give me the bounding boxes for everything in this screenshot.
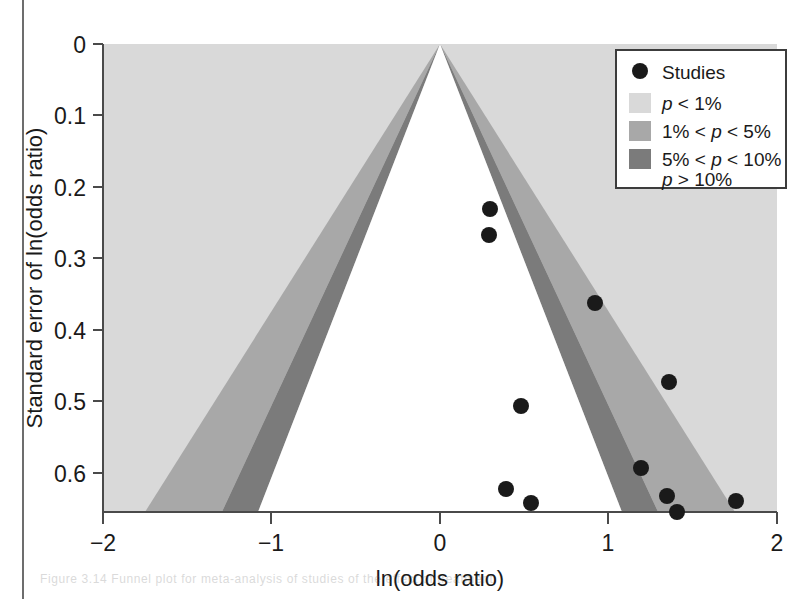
y-tick-label: 0.3	[54, 246, 86, 272]
legend-item-label: 1% < p < 5%	[662, 121, 771, 142]
y-tick-label: 0.6	[54, 461, 86, 487]
legend-item-label: p > 10%	[661, 169, 732, 190]
funnel-plot-figure: 0 0.1 0.2 0.3 0.4 0.5 0.6 −2 −1 0 1 2 ln…	[0, 0, 806, 599]
y-tick-label: 0.5	[54, 389, 86, 415]
data-point[interactable]	[498, 481, 514, 497]
data-point[interactable]	[633, 460, 649, 476]
legend-item-label: Studies	[662, 62, 725, 83]
x-tick-label: 0	[434, 530, 447, 556]
x-tick-label: −1	[258, 530, 284, 556]
figure-caption-faint: Figure 3.14 Funnel plot for meta-analysi…	[40, 572, 780, 592]
legend: Studies p < 1% 1% < p < 5% 5% < p < 10% …	[616, 50, 786, 190]
legend-item-label: p < 1%	[661, 93, 722, 114]
x-tick-label: 2	[771, 530, 784, 556]
data-point[interactable]	[659, 488, 675, 504]
funnel-plot-canvas: 0 0.1 0.2 0.3 0.4 0.5 0.6 −2 −1 0 1 2 ln…	[0, 0, 806, 599]
x-tick-label: −2	[90, 530, 116, 556]
data-point[interactable]	[481, 227, 497, 243]
data-point[interactable]	[523, 495, 539, 511]
data-point[interactable]	[661, 374, 677, 390]
legend-swatch-p-lt-1pct	[629, 93, 651, 113]
legend-studies-dot-icon	[632, 63, 648, 79]
data-point[interactable]	[669, 504, 685, 520]
y-axis-title: Standard error of ln(odds ratio)	[22, 128, 47, 429]
x-tick-label: 1	[602, 530, 615, 556]
y-tick-label: 0.4	[54, 318, 86, 344]
data-point[interactable]	[513, 398, 529, 414]
legend-swatch-1pct-to-5pct	[629, 121, 651, 141]
x-tick-labels: −2 −1 0 1 2	[90, 530, 784, 556]
y-tick-label: 0.2	[54, 175, 86, 201]
y-tick-label: 0.1	[54, 103, 86, 129]
y-tick-labels: 0 0.1 0.2 0.3 0.4 0.5 0.6	[54, 32, 86, 487]
legend-swatch-5pct-to-10pct	[629, 149, 651, 169]
y-tick-label: 0	[73, 32, 86, 58]
y-axis-ticks	[93, 44, 103, 473]
data-point[interactable]	[587, 295, 603, 311]
data-point[interactable]	[482, 201, 498, 217]
data-point[interactable]	[728, 493, 744, 509]
legend-item-label: 5% < p < 10%	[662, 149, 781, 170]
